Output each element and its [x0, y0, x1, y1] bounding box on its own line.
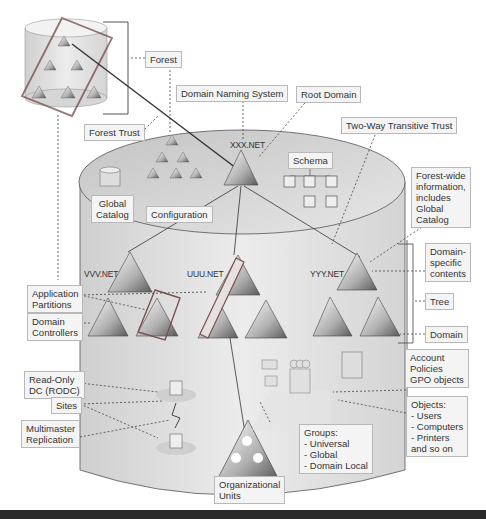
label-domain-specific-contents: Domain- specific contents	[425, 243, 471, 282]
label-domain-naming-system: Domain Naming System	[176, 85, 288, 102]
label-tree: Tree	[425, 293, 454, 310]
label-global-catalog: Global Catalog	[91, 195, 134, 223]
label-domain-controllers: Domain Controllers	[27, 313, 83, 341]
label-schema: Schema	[288, 152, 333, 169]
label-two-way-transitive-trust: Two-Way Transitive Trust	[341, 117, 457, 134]
database-icon	[100, 167, 120, 186]
label-rodc: Read-Only DC (RODC)	[24, 371, 85, 399]
label-account-policies: Account Policies GPO objects	[405, 349, 469, 388]
domain-name-yyy: YYY.NET	[310, 269, 344, 279]
ad-structure-diagram: Forest Domain Naming System Root Domain …	[0, 0, 486, 519]
label-multimaster-replication: Multimaster Replication	[21, 420, 80, 448]
bottom-bar	[0, 510, 486, 519]
label-configuration: Configuration	[146, 206, 213, 223]
label-groups: Groups: - Universal - Global - Domain Lo…	[299, 424, 373, 474]
label-forest: Forest	[145, 51, 182, 68]
label-application-partitions: Application Partitions	[27, 285, 83, 313]
label-root-domain: Root Domain	[296, 86, 361, 103]
server-icon	[342, 352, 362, 378]
label-organizational-units: Organizational Units	[214, 476, 285, 504]
domain-name-root: XXX.NET	[230, 140, 265, 150]
label-domain: Domain	[425, 326, 468, 343]
forest-cylinder-icon	[22, 18, 112, 116]
label-forest-wide-info: Forest-wide information, includes Global…	[411, 167, 471, 228]
label-forest-trust: Forest Trust	[84, 124, 145, 141]
domain-name-vvv: VVV.NET	[84, 269, 118, 279]
label-sites: Sites	[51, 397, 82, 414]
domain-name-uuu: UUU.NET	[187, 269, 223, 279]
label-objects: Objects: - Users - Computers - Printers …	[406, 396, 468, 457]
